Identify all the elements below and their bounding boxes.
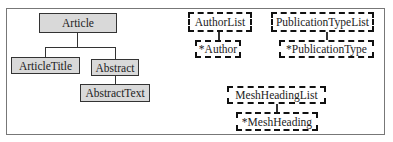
node-article: Article	[39, 13, 117, 33]
connector-abstract-abstracttext	[115, 76, 116, 84]
connector-meshlist-mesh	[276, 104, 278, 112]
node-mesh-heading-list: MeshHeadingList	[227, 86, 326, 104]
connector-to-articletitle	[45, 47, 46, 57]
connector-article-down	[77, 33, 78, 47]
node-article-title: ArticleTitle	[11, 57, 80, 74]
node-abstract: Abstract	[91, 59, 139, 76]
node-author: *Author	[195, 40, 241, 58]
connector-article-horizontal	[45, 47, 115, 48]
node-author-list: AuthorList	[188, 12, 252, 32]
connector-to-abstract	[115, 47, 116, 59]
node-publication-type-list: PublicationTypeList	[271, 12, 374, 32]
node-publication-type: *PublicationType	[279, 40, 374, 58]
connector-pubtypelist-pubtype	[326, 32, 328, 40]
node-abstract-text: AbstractText	[80, 84, 150, 102]
node-mesh-heading: *MeshHeading	[236, 112, 318, 131]
connector-authorlist-author	[218, 32, 220, 40]
